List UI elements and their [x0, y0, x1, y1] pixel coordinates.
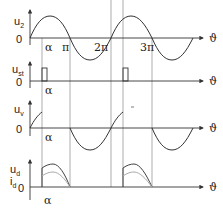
vertical-gridlines — [42, 0, 152, 187]
gate-pulse-2 — [123, 68, 128, 81]
id-curve-1 — [42, 172, 70, 187]
u2-label: u2 — [14, 15, 24, 29]
panel-u2: u2 0 α π 2π 3π ϑ — [14, 10, 217, 60]
uv-reverse-segment-2 — [152, 128, 193, 150]
panel-ud-id: ud id 0 α ϑ — [10, 160, 217, 207]
u2-x-symbol: ϑ — [209, 32, 217, 45]
uv-label: uv — [14, 103, 24, 117]
ud-tick-alpha: α — [44, 194, 52, 207]
id-curve-2 — [123, 172, 152, 187]
ust-tick-alpha: α — [45, 84, 53, 97]
tick-3pi: 3π — [140, 41, 154, 54]
tick-2pi: 2π — [94, 41, 108, 54]
thyristor-waveform-diagram: u2 0 α π 2π 3π ϑ ust 0 α ϑ uv 0 α ϑ — [0, 0, 223, 212]
ud-curve-1 — [42, 164, 70, 187]
uv-x-symbol: ϑ — [209, 122, 217, 135]
uv-tick-alpha: α — [45, 131, 53, 144]
gate-pulse-1 — [42, 68, 47, 81]
ust-zero-label: 0 — [16, 76, 22, 88]
tick-pi: π — [62, 41, 69, 54]
ud-zero-label: 0 — [18, 182, 24, 194]
u2-zero-label: 0 — [16, 33, 22, 45]
uv-reverse-segment-1 — [70, 112, 123, 150]
id-label: id — [10, 175, 16, 189]
panel-ust: ust 0 α ϑ — [12, 62, 217, 97]
tick-alpha: α — [45, 41, 53, 54]
ud-curve-2 — [123, 164, 152, 187]
ud-x-symbol: ϑ — [209, 181, 217, 194]
panel-uv: uv 0 α ϑ — [14, 101, 217, 150]
ust-x-symbol: ϑ — [209, 75, 217, 88]
ust-label: ust — [12, 63, 24, 77]
uv-blocking-segment-1 — [30, 112, 42, 128]
uv-zero-label: 0 — [16, 123, 22, 135]
